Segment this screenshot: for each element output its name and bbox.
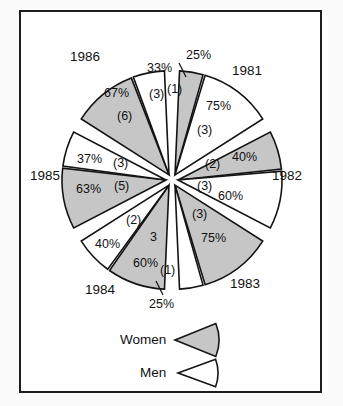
percent-label-1983-men: 25% [149, 298, 174, 311]
count-label-1983-women: (3) [192, 208, 207, 221]
count-label-1981-men: (3) [197, 124, 212, 137]
count-label-1985-men: (3) [113, 157, 128, 170]
count-label-1982-men: (3) [197, 180, 212, 193]
count-label-1981-women: (1) [167, 83, 182, 96]
year-label-1985: 1985 [30, 169, 60, 183]
percent-label-1984-men: 40% [95, 238, 120, 251]
percent-label-1986-women: 67% [104, 87, 129, 100]
year-label-1986: 1986 [70, 50, 100, 64]
percent-label-1984-women: 60% [133, 257, 158, 270]
year-label-1984: 1984 [85, 283, 115, 297]
legend-label-women: Women [120, 333, 166, 347]
percent-label-1985-women: 63% [76, 183, 101, 196]
pie-chart-figure: 1981 1982 1983 1984 1985 1986 25% (1) 75… [0, 0, 343, 406]
percent-label-1981-women: 25% [186, 49, 211, 62]
count-label-1983-men: (1) [160, 264, 175, 277]
percent-label-1982-men: 60% [218, 190, 243, 203]
percent-label-1982-women: 40% [232, 151, 257, 164]
year-label-1983: 1983 [230, 277, 260, 291]
percent-label-1985-men: 37% [77, 153, 102, 166]
year-label-1981: 1981 [232, 64, 262, 78]
count-label-1984-women: 3 [150, 231, 157, 244]
count-label-1982-women: (2) [205, 158, 220, 171]
count-label-1985-women: (5) [114, 180, 129, 193]
legend-label-men: Men [140, 366, 166, 380]
percent-label-1986-men: 33% [147, 62, 172, 75]
count-label-1986-women: (6) [117, 110, 132, 123]
percent-label-1983-women: 75% [201, 232, 226, 245]
year-label-1982: 1982 [272, 169, 302, 183]
count-label-1984-men: (2) [126, 214, 141, 227]
count-label-1986-men: (3) [149, 88, 164, 101]
percent-label-1981-men: 75% [206, 100, 231, 113]
